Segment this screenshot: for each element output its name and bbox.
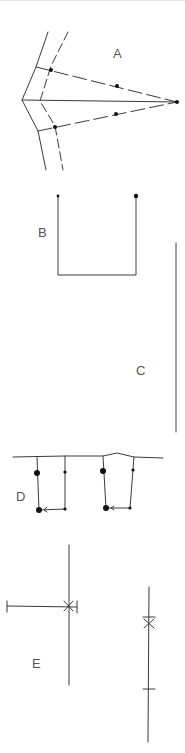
panel-e: E [7, 545, 155, 742]
label-c: C [136, 363, 145, 378]
upper-boundary-point [49, 68, 53, 72]
center-ray [22, 100, 177, 102]
panel-c: C [136, 243, 176, 432]
right-end-point [134, 194, 138, 198]
left-loop-bottom [39, 509, 65, 510]
left-loop-upper-large-point [34, 470, 40, 476]
lower-mid-point [114, 112, 118, 116]
upper-dashed-ray [36, 67, 177, 102]
label-d: D [16, 489, 25, 504]
upper-mid-point [115, 84, 119, 88]
left-loop-lower-small-point [63, 507, 66, 510]
technical-diagram: A B C D [0, 0, 185, 753]
left-loop-left-leg [37, 457, 39, 510]
right-loop-left-leg [103, 456, 106, 508]
label-b: B [38, 225, 47, 240]
panel-b: B [38, 194, 138, 275]
right-loop-lower-small-point [128, 506, 131, 509]
left-end-point [57, 195, 60, 198]
lower-boundary-point [53, 125, 57, 129]
left-loop-upper-small-point [63, 470, 66, 473]
right-loop-right-leg [130, 457, 134, 508]
apex-point [175, 100, 179, 104]
horizontal-line [7, 606, 77, 607]
panel-a: A [22, 32, 179, 170]
right-vertical-line [148, 587, 149, 742]
right-loop-upper-large-point [100, 468, 106, 474]
panel-d: D [13, 453, 163, 513]
right-loop-upper-small-point [131, 468, 134, 471]
label-a: A [113, 46, 122, 61]
left-loop-lower-large-point [36, 507, 42, 513]
right-loop-lower-large-point [103, 505, 109, 511]
lower-dashed-ray [38, 102, 177, 131]
outer-boundary-line [22, 32, 48, 170]
u-shape-line [58, 196, 136, 275]
baseline [13, 453, 163, 458]
label-e: E [32, 656, 41, 671]
